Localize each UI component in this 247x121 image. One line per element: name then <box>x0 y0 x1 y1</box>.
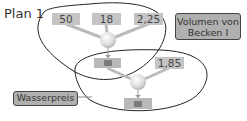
result-box-1 <box>94 58 121 68</box>
operator-node-1 <box>100 32 116 48</box>
label-wasserpreis: Wasserpreis <box>13 91 78 106</box>
input-box-3: 2,25 <box>134 13 163 25</box>
input-box-4: 1,85 <box>155 57 184 69</box>
operator-node-2 <box>130 74 146 90</box>
result-box-2 <box>124 98 152 109</box>
input-box-2: 18 <box>92 13 121 25</box>
input-box-1: 50 <box>52 13 80 25</box>
label-volumen-von-becken: Volumen von Becken I <box>175 13 241 40</box>
diagram-title: Plan 1 <box>4 6 44 21</box>
